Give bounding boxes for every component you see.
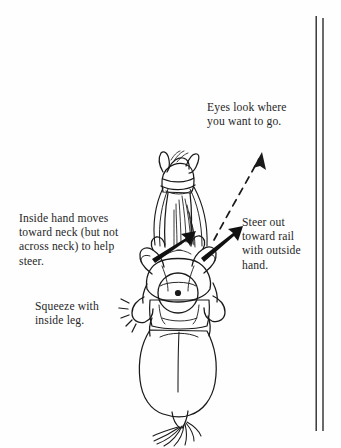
saddle bbox=[150, 300, 210, 329]
caption-eyes-look-where: Eyes look where you want to go. bbox=[207, 101, 319, 129]
horse-figure bbox=[139, 151, 217, 446]
illustration-page: Eyes look where you want to go. Inside h… bbox=[0, 0, 341, 448]
caption-steer-out: Steer out toward rail with outside hand. bbox=[242, 216, 334, 273]
caption-inside-hand: Inside hand moves toward neck (but not a… bbox=[19, 212, 159, 269]
caption-squeeze-inside-leg: Squeeze with inside leg. bbox=[35, 300, 145, 328]
